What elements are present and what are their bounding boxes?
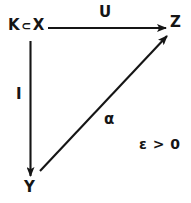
node-z: Z [170,15,181,30]
arrow-label-i: I [16,87,22,102]
node-k-subset-x: K⊂X [8,18,45,33]
arrow-label-u: U [99,5,111,20]
node-y: Y [24,180,35,195]
node-x-label: X [33,16,45,34]
epsilon-condition-annotation: ε > 0 [139,137,181,151]
arrow-label-alpha: α [104,112,114,127]
node-k-label: K [8,16,20,34]
commutative-diagram-figure: K⊂X Z Y U I α ε > 0 [0,0,191,203]
subset-icon: ⊂ [20,19,33,33]
